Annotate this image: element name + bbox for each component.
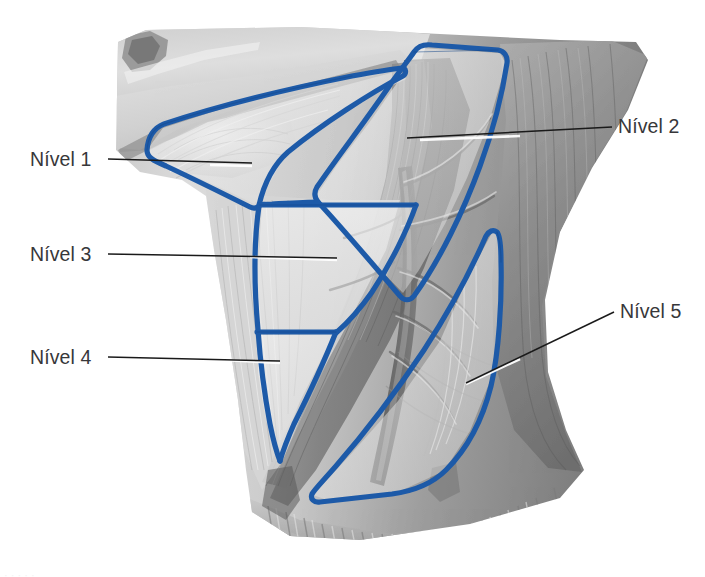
trapezius-mass (492, 40, 648, 472)
label-nivel-5: Nível 5 (620, 302, 681, 322)
label-nivel-1: Nível 1 (30, 150, 91, 170)
label-nivel-4: Nível 4 (30, 348, 91, 368)
leader-highlight-nivel-1 (210, 165, 252, 166)
label-nivel-2: Nível 2 (618, 117, 679, 137)
anatomical-figure: Nível 1 Nível 3 Nível 4 Nível 2 Nível 5 … (0, 0, 705, 577)
neck-dissection-illustration (0, 0, 705, 577)
cut-off-caption: · · · · · (4, 570, 35, 577)
label-nivel-3: Nível 3 (30, 245, 91, 265)
